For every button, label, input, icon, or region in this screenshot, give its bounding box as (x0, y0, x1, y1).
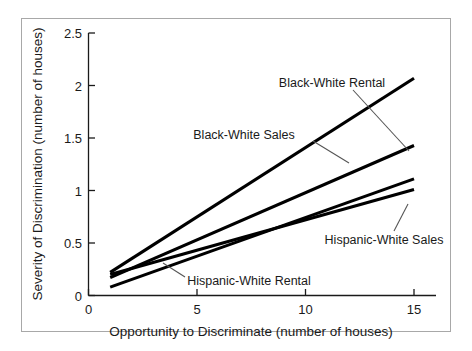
leader-line-black-white-sales (313, 141, 349, 163)
y-tick-label: 2.5 (64, 26, 82, 41)
x-tick-label: 0 (85, 302, 92, 317)
chart-figure: 2.5 2 1.5 1 0.5 0 0 5 10 15 Opportunity … (0, 0, 472, 351)
y-tick-label: 2 (75, 79, 82, 94)
x-tick-label: 5 (193, 302, 200, 317)
x-tick-label: 10 (298, 302, 312, 317)
series-label-hispanic-white-rental: Hispanic-White Rental (187, 274, 311, 288)
y-tick-label: 0 (75, 289, 82, 304)
x-axis-tick-labels: 0 5 10 15 (85, 302, 421, 317)
series-line-hispanic-white-rental (110, 190, 414, 275)
series-line-black-white-sales (110, 146, 414, 278)
y-axis-title: Severity of Discrimination (number of ho… (30, 27, 45, 300)
y-axis-tick-labels: 2.5 2 1.5 1 0.5 0 (64, 26, 82, 304)
x-axis-title: Opportunity to Discriminate (number of h… (109, 324, 393, 339)
x-axis-ticks (89, 289, 415, 296)
x-tick-label: 15 (407, 302, 421, 317)
leader-line-hispanic-white-sales (394, 204, 408, 231)
series-label-hispanic-white-sales: Hispanic-White Sales (325, 233, 444, 247)
series-label-black-white-rental: Black-White Rental (279, 76, 385, 90)
y-tick-label: 0.5 (64, 236, 82, 251)
y-tick-label: 1.5 (64, 131, 82, 146)
y-tick-label: 1 (75, 184, 82, 199)
series-label-black-white-sales: Black-White Sales (193, 128, 294, 142)
y-axis-ticks (89, 33, 96, 296)
series-lines (110, 78, 414, 287)
line-chart-plot: 2.5 2 1.5 1 0.5 0 0 5 10 15 Opportunity … (0, 0, 472, 351)
